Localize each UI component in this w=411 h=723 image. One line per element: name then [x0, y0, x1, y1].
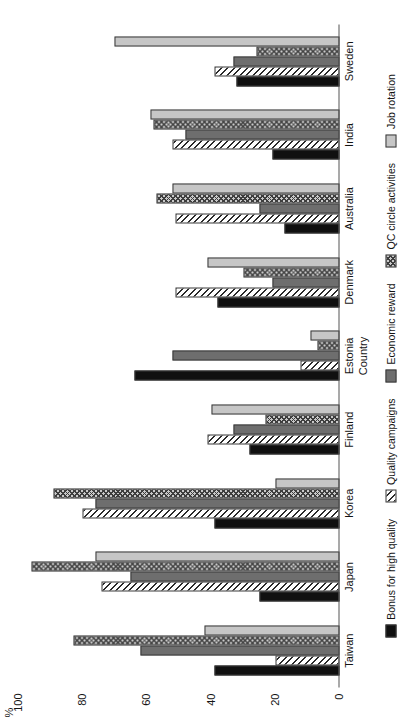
- value-axis-tick-80: 80: [77, 693, 88, 705]
- bar-japan-bonus-for-high-quality: [259, 592, 339, 602]
- bar-taiwan-job-rotation: [204, 625, 339, 635]
- bar-korea-bonus-for-high-quality: [214, 518, 339, 528]
- bar-groups: [18, 24, 339, 687]
- value-axis-tick-labels: 020406080100: [18, 689, 339, 723]
- bar-australia-quality-campaigns: [175, 213, 339, 223]
- bar-korea-job-rotation: [275, 478, 339, 488]
- bar-australia-job-rotation: [172, 183, 339, 193]
- bar-finland-bonus-for-high-quality: [249, 444, 339, 454]
- bar-estonia-qc-circle-activities: [317, 340, 339, 350]
- bar-korea-qc-circle-activities: [53, 488, 339, 498]
- bar-denmark-bonus-for-high-quality: [217, 297, 339, 307]
- legend-label: QC circle activities: [385, 163, 396, 249]
- legend-label: Economic reward: [385, 283, 396, 364]
- bar-sweden-bonus-for-high-quality: [236, 76, 339, 86]
- bar-sweden-job-rotation: [114, 36, 339, 46]
- solid-gray-swatch: [385, 369, 396, 382]
- bar-japan-quality-campaigns: [101, 582, 339, 592]
- bar-finland-job-rotation: [211, 404, 339, 414]
- bar-group-korea: [18, 466, 339, 540]
- bar-estonia-job-rotation: [310, 330, 339, 340]
- value-axis-tick-40: 40: [205, 693, 216, 705]
- bar-india-job-rotation: [150, 109, 339, 119]
- value-axis-tick-100: 100: [13, 693, 24, 711]
- legend-item-qc-circle-activities[interactable]: QC circle activities: [385, 163, 396, 267]
- value-axis-tick-20: 20: [269, 693, 280, 705]
- bar-denmark-job-rotation: [207, 257, 339, 267]
- bar-group-taiwan: [18, 613, 339, 687]
- cross-hatch-swatch: [385, 254, 396, 267]
- value-axis-tick-60: 60: [141, 693, 152, 705]
- bar-group-sweden: [18, 24, 339, 98]
- solid-light-gray-swatch: [385, 134, 396, 147]
- bar-sweden-economic-reward: [233, 56, 339, 66]
- bar-finland-qc-circle-activities: [265, 414, 339, 424]
- category-axis-title: Country: [356, 24, 368, 687]
- bar-india-quality-campaigns: [172, 139, 339, 149]
- bar-group-estonia: [18, 319, 339, 393]
- bar-japan-job-rotation: [95, 552, 339, 562]
- bar-sweden-quality-campaigns: [214, 66, 339, 76]
- bar-australia-qc-circle-activities: [156, 193, 339, 203]
- legend-item-economic-reward[interactable]: Economic reward: [385, 283, 396, 382]
- value-axis-line: [338, 24, 339, 687]
- legend-item-quality-campaigns[interactable]: Quality campaigns: [385, 398, 396, 502]
- bar-korea-economic-reward: [95, 498, 339, 508]
- plot-area: [18, 24, 339, 687]
- bar-finland-economic-reward: [233, 424, 339, 434]
- value-axis-tick-0: 0: [334, 693, 345, 699]
- legend-label: Quality campaigns: [385, 398, 396, 484]
- bar-korea-quality-campaigns: [82, 508, 339, 518]
- bar-taiwan-quality-campaigns: [275, 655, 339, 665]
- bar-japan-economic-reward: [130, 572, 339, 582]
- diagonal-hatch-swatch: [385, 489, 396, 502]
- legend-label: Bonus for high quality: [385, 518, 396, 619]
- bar-taiwan-bonus-for-high-quality: [214, 665, 339, 675]
- bar-india-economic-reward: [185, 129, 339, 139]
- chart-canvas: % 020406080100 TaiwanJapanKoreaFinlandEs…: [0, 0, 411, 723]
- bar-estonia-bonus-for-high-quality: [134, 370, 339, 380]
- bar-group-australia: [18, 171, 339, 245]
- bar-japan-qc-circle-activities: [31, 562, 339, 572]
- bar-india-bonus-for-high-quality: [272, 149, 339, 159]
- bar-group-japan: [18, 540, 339, 614]
- bar-denmark-quality-campaigns: [175, 287, 339, 297]
- bar-estonia-economic-reward: [172, 350, 339, 360]
- bar-finland-quality-campaigns: [207, 434, 339, 444]
- chart-legend: Bonus for high qualityQuality campaignsE…: [379, 24, 401, 687]
- bar-group-finland: [18, 392, 339, 466]
- bar-australia-bonus-for-high-quality: [284, 223, 339, 233]
- bar-denmark-qc-circle-activities: [243, 267, 339, 277]
- bar-estonia-quality-campaigns: [300, 360, 339, 370]
- legend-item-job-rotation[interactable]: Job rotation: [385, 74, 396, 147]
- rotated-chart-stage: % 020406080100 TaiwanJapanKoreaFinlandEs…: [0, 0, 411, 723]
- bar-taiwan-qc-circle-activities: [73, 635, 339, 645]
- bar-denmark-economic-reward: [272, 277, 339, 287]
- bar-australia-economic-reward: [259, 203, 339, 213]
- legend-label: Job rotation: [385, 74, 396, 129]
- legend-item-bonus-for-high-quality[interactable]: Bonus for high quality: [385, 518, 396, 637]
- bar-sweden-qc-circle-activities: [256, 46, 339, 56]
- bar-india-qc-circle-activities: [153, 119, 339, 129]
- bar-group-india: [18, 98, 339, 172]
- solid-black-swatch: [385, 624, 396, 637]
- bar-taiwan-economic-reward: [140, 645, 339, 655]
- bar-group-denmark: [18, 245, 339, 319]
